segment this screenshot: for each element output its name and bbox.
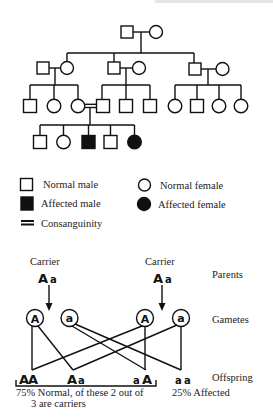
legend-label: Affected male xyxy=(41,198,101,209)
parent-genotype-right: A a xyxy=(153,271,172,286)
gamete-allele: A xyxy=(31,313,40,326)
allele: A xyxy=(153,271,163,286)
gen1-female xyxy=(150,26,163,39)
allele: A xyxy=(142,372,152,387)
summary-normal-line2: 3 are carriers xyxy=(31,398,86,409)
cropped-header xyxy=(155,0,273,3)
allele: a xyxy=(133,375,140,386)
allele: a xyxy=(175,375,182,386)
gen3-male xyxy=(191,100,204,113)
gen2-right-male xyxy=(189,63,201,75)
gen3-female xyxy=(47,99,61,113)
couple-right xyxy=(175,63,241,86)
gen4-normal-male xyxy=(104,136,117,149)
gen2-left-female xyxy=(61,62,74,75)
normal-female-icon xyxy=(139,179,151,191)
gen3-female xyxy=(168,99,182,113)
row-label-parents: Parents xyxy=(212,269,243,280)
legend-affected-female: Affected female xyxy=(138,198,227,211)
gen2-left-male xyxy=(37,62,49,74)
cross-parents: Carrier Carrier A a A a Parents xyxy=(30,256,243,311)
line-leftA-to-Aa xyxy=(38,326,73,370)
gen3-male xyxy=(24,100,37,113)
legend-label: Affected female xyxy=(158,199,226,210)
legend-normal-female: Normal female xyxy=(139,179,224,191)
summary-affected: 25% Affected xyxy=(172,387,231,398)
gen3-male xyxy=(120,100,133,113)
gamete-left-A: A xyxy=(27,310,44,327)
line-lefta-to-aA xyxy=(72,326,146,370)
generation-3 xyxy=(24,85,248,113)
legend-normal-male: Normal male xyxy=(21,179,99,191)
carrier-label-left: Carrier xyxy=(30,256,60,267)
offspring-AA: A A xyxy=(19,372,38,387)
cross-gametes: A a A a Gametes xyxy=(27,310,249,327)
consanguinity-icon-bottom xyxy=(21,224,34,226)
arrow-right xyxy=(159,285,166,311)
row-label-offspring: Offspring xyxy=(212,372,253,383)
pedigree-diagram: Normal male Affected male Consanguinity … xyxy=(0,0,273,419)
allele: a xyxy=(184,375,191,386)
gen3-female xyxy=(234,99,248,113)
generation-4 xyxy=(34,108,142,149)
gen3-female xyxy=(212,99,226,113)
allele: a xyxy=(165,274,172,285)
allele: a xyxy=(50,274,57,285)
gamete-allele: A xyxy=(141,313,150,326)
arrow-down-icon xyxy=(46,303,53,311)
normal-male-icon xyxy=(21,179,33,191)
couple-left xyxy=(30,62,78,86)
allele: A xyxy=(28,372,38,387)
legend-label: Consanguinity xyxy=(41,218,103,229)
offspring-aa: a a xyxy=(175,375,191,386)
summary-normal-line1: 75% Normal, of these 2 out of xyxy=(16,387,144,398)
consanguinity-icon-top xyxy=(21,220,34,222)
legend-consanguinity: Consanguinity xyxy=(21,218,103,229)
gen3-female-consanguineous xyxy=(71,99,85,113)
gen4-affected-female xyxy=(128,135,142,149)
cross-offspring: A A A a a A a a Offspring 75% Normal, of… xyxy=(16,372,253,409)
gen3-male xyxy=(144,100,157,113)
gamete-right-a: a xyxy=(173,310,190,327)
gen2-right-female xyxy=(216,63,229,76)
couple-middle xyxy=(102,62,150,86)
gen2-middle-female xyxy=(133,62,146,75)
offspring-Aa: A a xyxy=(67,372,85,387)
generation-2 xyxy=(30,62,241,86)
gen4-normal-male xyxy=(34,136,47,149)
gamete-allele: a xyxy=(177,312,184,325)
allele: a xyxy=(78,375,85,386)
legend-label: Normal male xyxy=(43,179,98,190)
arrow-down-icon xyxy=(159,303,166,311)
allele: A xyxy=(67,372,77,387)
offspring-aA: a A xyxy=(133,372,152,387)
affected-male-icon xyxy=(21,197,33,210)
gamete-right-A: A xyxy=(137,310,154,327)
cross-lines xyxy=(32,324,181,370)
gen4-normal-female xyxy=(57,135,71,149)
allele: A xyxy=(38,271,48,286)
gen2-middle-male xyxy=(108,62,120,74)
carrier-label-right: Carrier xyxy=(145,256,175,267)
legend: Normal male Affected male Consanguinity … xyxy=(21,179,227,230)
row-label-gametes: Gametes xyxy=(212,314,249,325)
parent-genotype-left: A a xyxy=(38,271,57,286)
gen3-male-consanguineous xyxy=(97,100,110,113)
gamete-allele: a xyxy=(66,312,73,325)
legend-label: Normal female xyxy=(160,180,224,191)
gen1-male xyxy=(121,26,133,38)
generation-1 xyxy=(67,26,194,64)
gen4-affected-male xyxy=(82,136,95,149)
arrow-left xyxy=(46,285,53,311)
legend-affected-male: Affected male xyxy=(21,197,101,210)
affected-female-icon xyxy=(138,198,151,211)
